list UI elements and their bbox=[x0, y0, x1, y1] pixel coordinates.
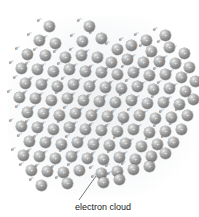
metal-cation bbox=[126, 40, 137, 51]
metal-cation bbox=[20, 78, 31, 89]
metal-cation bbox=[68, 79, 79, 90]
metal-cation bbox=[114, 152, 125, 163]
electron-cloud-label: electron cloud bbox=[75, 202, 131, 213]
delocalized-electron: e⁻ bbox=[134, 31, 139, 37]
metal-cation bbox=[70, 108, 81, 119]
metal-cation bbox=[160, 30, 171, 41]
metal-cation bbox=[120, 138, 131, 149]
metal-cation bbox=[144, 161, 155, 172]
delocalized-electron: e⁻ bbox=[9, 117, 14, 123]
delocalized-electron: e⁻ bbox=[77, 17, 82, 23]
metal-cation bbox=[32, 64, 43, 75]
metal-cation bbox=[24, 136, 35, 147]
delocalized-electron: e⁻ bbox=[15, 103, 20, 109]
delocalized-electron: e⁻ bbox=[11, 146, 16, 152]
metal-cation bbox=[168, 137, 179, 148]
metal-cation bbox=[76, 50, 87, 61]
metal-cation bbox=[72, 137, 83, 148]
metal-cation bbox=[18, 150, 29, 161]
metal-cation bbox=[160, 69, 171, 80]
metal-cation bbox=[148, 84, 159, 95]
delocalized-electron: e⁻ bbox=[37, 17, 42, 23]
metal-cation bbox=[150, 113, 161, 124]
delocalized-electron: e⁻ bbox=[89, 164, 94, 170]
metal-cation bbox=[128, 67, 139, 78]
metal-cation bbox=[164, 42, 175, 53]
metal-cation bbox=[36, 79, 47, 90]
metal-cation bbox=[94, 96, 105, 107]
metal-cation bbox=[142, 98, 153, 109]
metal-cation bbox=[82, 153, 93, 164]
metal-cation bbox=[66, 151, 77, 162]
metal-cation bbox=[190, 76, 199, 87]
metal-cation bbox=[98, 177, 109, 188]
metal-cation bbox=[80, 66, 91, 77]
metal-cation bbox=[50, 153, 61, 164]
metal-cation bbox=[62, 178, 73, 189]
metal-cation bbox=[116, 83, 127, 94]
metal-cation bbox=[48, 66, 59, 77]
metal-cation bbox=[80, 124, 91, 135]
delocalized-electron: e⁻ bbox=[17, 132, 22, 138]
metal-cation bbox=[30, 93, 41, 104]
metal-cation bbox=[62, 93, 73, 104]
delocalized-electron: e⁻ bbox=[29, 176, 34, 182]
metal-cation bbox=[44, 21, 55, 32]
metal-cation bbox=[96, 125, 107, 136]
delocalized-electron: e⁻ bbox=[15, 45, 20, 51]
metal-cation bbox=[144, 70, 155, 81]
metal-cation bbox=[134, 110, 145, 121]
metal-cation bbox=[48, 124, 59, 135]
metal-cation bbox=[22, 107, 33, 118]
metal-cation bbox=[60, 52, 71, 63]
electron-cloud-figure: e⁻e⁻e⁻e⁻e⁻e⁻e⁻e⁻e⁻e⁻e⁻e⁻e⁻e⁻e⁻e⁻e⁻e⁻e⁻e⁻… bbox=[0, 0, 199, 217]
metal-cation bbox=[98, 154, 109, 165]
metal-cation bbox=[102, 111, 113, 122]
metal-cation bbox=[14, 92, 25, 103]
metal-cation bbox=[122, 54, 133, 65]
delocalized-electron: e⁻ bbox=[153, 26, 158, 32]
metal-cation bbox=[174, 99, 185, 110]
metal-cation bbox=[32, 122, 43, 133]
delocalized-electron: e⁻ bbox=[9, 59, 14, 65]
metal-cation bbox=[96, 33, 107, 44]
metal-cation bbox=[42, 166, 53, 177]
metal-cation bbox=[58, 167, 69, 178]
metal-cation bbox=[78, 95, 89, 106]
metal-cation bbox=[164, 83, 175, 94]
delocalized-electron: e⁻ bbox=[119, 36, 124, 42]
delocalized-electron: e⁻ bbox=[19, 161, 24, 167]
metal-cation bbox=[170, 58, 181, 69]
metal-cation bbox=[34, 151, 45, 162]
metal-cation bbox=[54, 110, 65, 121]
metal-cation bbox=[144, 127, 155, 138]
metal-cation bbox=[114, 174, 125, 185]
metal-cation bbox=[92, 52, 103, 63]
delocalized-electron: e⁻ bbox=[7, 88, 12, 94]
metal-cation bbox=[50, 38, 61, 49]
metal-cation bbox=[126, 95, 137, 106]
delocalized-electron: e⁻ bbox=[70, 32, 75, 38]
metal-cation bbox=[38, 108, 49, 119]
metal-cation bbox=[100, 82, 111, 93]
metal-cation bbox=[188, 94, 199, 105]
metal-cation bbox=[64, 64, 75, 75]
metal-cation bbox=[104, 140, 115, 151]
metal-cation bbox=[74, 165, 85, 176]
metal-cation bbox=[138, 57, 149, 68]
delocalized-electron: e⁻ bbox=[13, 74, 18, 80]
metal-cation bbox=[40, 137, 51, 148]
metal-cation bbox=[182, 110, 193, 121]
metal-cation bbox=[132, 81, 143, 92]
metal-cation bbox=[128, 164, 139, 175]
delocalized-electron: e⁻ bbox=[27, 31, 32, 37]
metal-cation bbox=[112, 69, 123, 80]
metal-cation bbox=[52, 81, 63, 92]
metal-cation bbox=[106, 57, 117, 68]
metal-cation bbox=[36, 180, 47, 191]
metal-cation bbox=[34, 35, 45, 46]
metal-cation bbox=[166, 112, 177, 123]
metal-cation bbox=[154, 56, 165, 67]
metal-cation bbox=[77, 36, 88, 47]
metal-cation bbox=[96, 67, 107, 78]
